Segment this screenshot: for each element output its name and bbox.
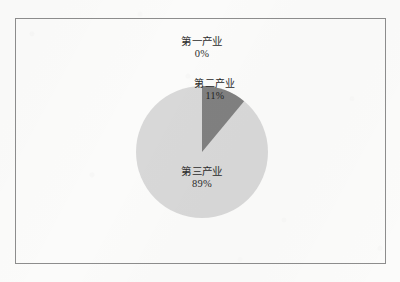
pie-label-primary-name: 第一产业: [150, 36, 254, 48]
pie-label-primary-value: 0%: [150, 48, 254, 60]
pie-label-tertiary: 第三产业 89%: [150, 166, 254, 191]
pie-label-secondary-name: 第二产业: [193, 78, 237, 90]
pie-label-secondary-value: 11%: [193, 90, 237, 102]
pie-label-secondary: 第二产业 11%: [193, 78, 237, 102]
pie-label-tertiary-value: 89%: [150, 178, 254, 190]
pie-label-primary: 第一产业 0%: [150, 36, 254, 61]
pie-label-tertiary-name: 第三产业: [150, 166, 254, 178]
